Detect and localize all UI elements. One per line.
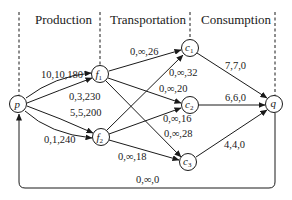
svg-text:q: q bbox=[271, 97, 277, 109]
label-p-f1-b: 0,3,230 bbox=[69, 91, 101, 102]
node-c3: c3 bbox=[180, 154, 197, 171]
label-p-f1-a: 10,10,180 bbox=[41, 69, 83, 80]
node-q: q bbox=[266, 96, 283, 113]
label-f1-c2: 0,∞,20 bbox=[159, 83, 188, 94]
header-transportation: Transportation bbox=[110, 12, 187, 27]
node-c1: c1 bbox=[182, 40, 199, 57]
label-f2-c3: 0,∞,18 bbox=[118, 151, 147, 162]
header-consumption: Consumption bbox=[201, 12, 272, 27]
label-f2-c2: 0,∞,16 bbox=[163, 113, 192, 124]
svg-text:p: p bbox=[14, 98, 21, 110]
label-f1-c3: 0,∞,28 bbox=[164, 128, 193, 139]
label-p-f2-a: 5,5,200 bbox=[70, 107, 102, 118]
label-c1-q: 7,7,0 bbox=[225, 60, 246, 71]
node-f1: f1 bbox=[92, 66, 109, 83]
label-c3-q: 4,4,0 bbox=[224, 139, 245, 150]
label-p-f2-b: 0,1,240 bbox=[44, 134, 76, 145]
node-p: p bbox=[10, 96, 27, 113]
label-q-p: 0,∞,0 bbox=[136, 174, 159, 185]
label-c2-q: 6,6,0 bbox=[225, 92, 246, 103]
label-f2-c1: 0,∞,32 bbox=[169, 67, 198, 78]
node-c2: c2 bbox=[182, 97, 199, 114]
label-f1-c1: 0,∞,26 bbox=[130, 46, 159, 57]
header-production: Production bbox=[35, 12, 93, 27]
network-flow-diagram: Production Transportation Consumption 10… bbox=[0, 0, 292, 200]
node-f2: f2 bbox=[93, 129, 110, 146]
